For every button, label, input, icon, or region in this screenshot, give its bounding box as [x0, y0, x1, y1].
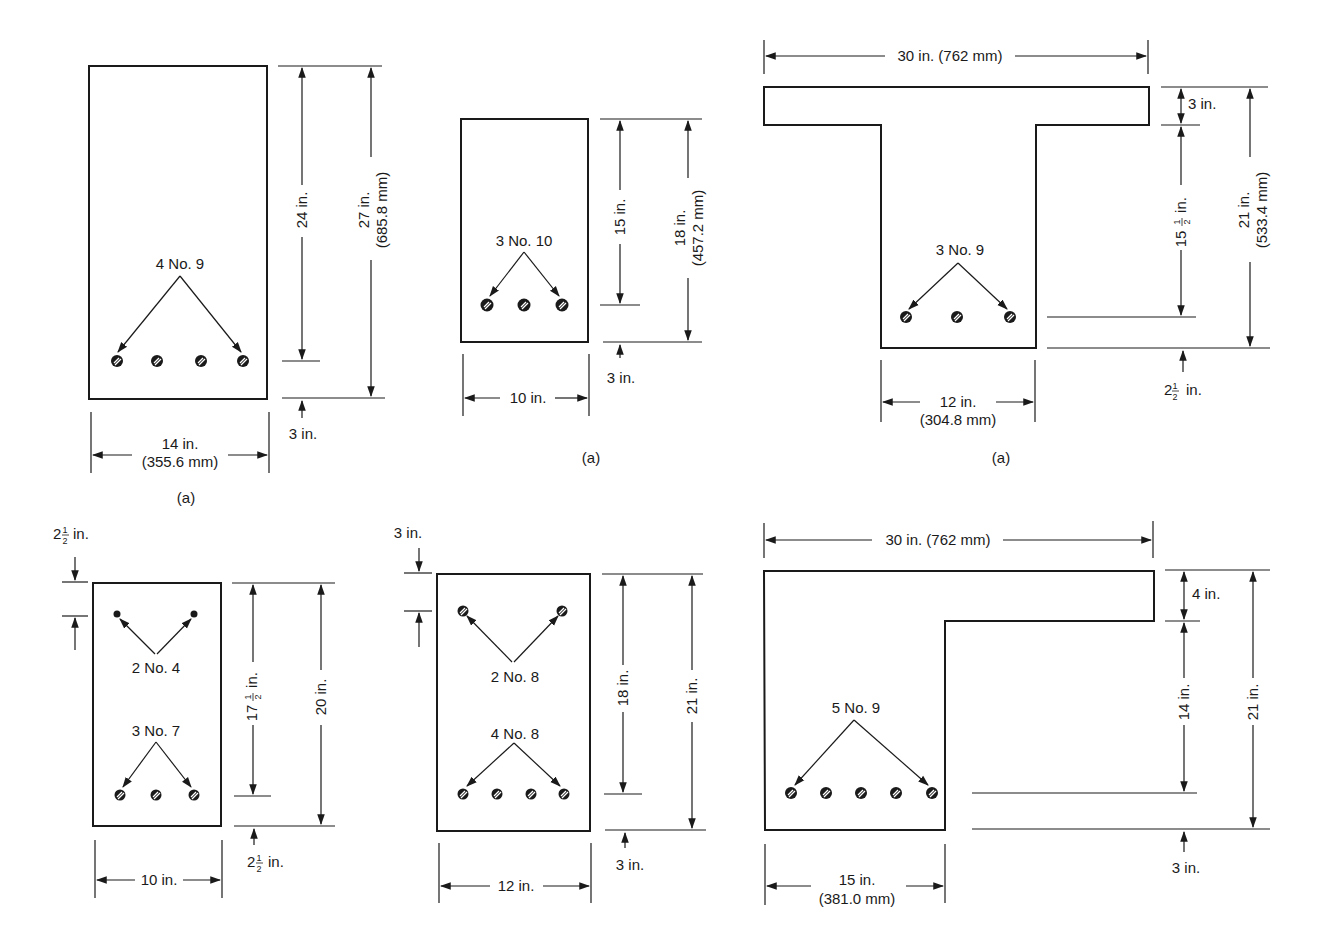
web-width-mm-label: (304.8 mm): [920, 411, 997, 428]
total-depth-label: 20 in.: [312, 679, 329, 716]
section-doubly-12x21: 2 No. 8 4 No. 8 3 in. 18 in. 21 in. 3 in…: [394, 524, 706, 903]
width-label: 10 in.: [141, 871, 178, 888]
concrete-outline: [93, 583, 221, 826]
bottom-cover-label: 2 1 2 in.: [247, 853, 284, 874]
svg-text:1: 1: [256, 853, 261, 863]
total-depth-label: 21 in.: [1235, 192, 1252, 229]
total-depth-mm-label: (685.8 mm): [373, 172, 390, 249]
web-width-label: 12 in.: [940, 393, 977, 410]
svg-text:2: 2: [62, 536, 67, 546]
svg-text:2: 2: [1164, 381, 1172, 398]
concrete-outline: [764, 87, 1149, 348]
bottom-cover-label: 3 in.: [616, 856, 644, 873]
rebar-label: 3 No. 9: [936, 241, 984, 258]
rebar-label: 4 No. 9: [156, 255, 204, 272]
svg-text:in.: in.: [268, 853, 284, 870]
bottom-rebar-label: 4 No. 8: [491, 725, 539, 742]
flange-width-label: 30 in. (762 mm): [885, 531, 990, 548]
svg-text:17: 17: [243, 705, 260, 722]
svg-text:in.: in.: [1186, 381, 1202, 398]
top-rebar-label: 2 No. 8: [491, 668, 539, 685]
svg-text:15: 15: [1172, 231, 1189, 248]
svg-text:2: 2: [1182, 219, 1192, 224]
section-doubly-10x20: 2 No. 4 3 No. 7 2 1 2 in. 17 1: [53, 525, 335, 898]
flange-thickness-label: 3 in.: [1188, 95, 1216, 112]
top-rebar-label: 2 No. 4: [132, 659, 180, 676]
cover-label: 2 1 2 in.: [1164, 381, 1202, 402]
web-depth-label: 15 1 2 in.: [1172, 197, 1192, 247]
svg-text:2: 2: [253, 694, 263, 699]
section-rect-10x18: 3 No. 10 15 in. 18 in. (457.2 mm) 3 in. …: [461, 119, 706, 466]
total-depth-label: 21 in.: [683, 678, 700, 715]
web-width-mm-label: (381.0 mm): [819, 890, 896, 907]
top-cover-label: 3 in.: [394, 524, 422, 541]
effective-depth-label: 15 in.: [611, 199, 628, 236]
total-depth-label: 21 in.: [1244, 684, 1261, 721]
total-depth-mm-label: (533.4 mm): [1253, 172, 1270, 249]
figure-caption: (a): [992, 449, 1010, 466]
figure-caption: (a): [582, 449, 600, 466]
section-rect-14x27: 4 No. 9 24 in. 27 in. (685.8 mm) 3 in. 1…: [89, 66, 390, 506]
top-cover-label: 2 1 2 in.: [53, 525, 89, 546]
svg-text:1: 1: [1172, 219, 1182, 224]
bottom-rebar-label: 3 No. 7: [132, 722, 180, 739]
section-ell-30x21: 5 No. 9 30 in. (762 mm) 4 in. 14 in. 21 …: [764, 521, 1270, 907]
width-label: 14 in.: [162, 435, 199, 452]
flange-thickness-label: 4 in.: [1192, 585, 1220, 602]
effective-depth-label: 17 1 2 in.: [243, 672, 263, 721]
total-depth-label: 27 in.: [355, 192, 372, 229]
cover-label: 3 in.: [289, 425, 317, 442]
cover-label: 3 in.: [1172, 859, 1200, 876]
svg-text:in.: in.: [243, 672, 260, 688]
web-width-label: 15 in.: [839, 871, 876, 888]
width-label: 10 in.: [510, 389, 547, 406]
width-label: 12 in.: [498, 877, 535, 894]
total-depth-label: 18 in.: [671, 210, 688, 247]
effective-depth-label: 24 in.: [293, 192, 310, 229]
beam-sections-diagram: 4 No. 9 24 in. 27 in. (685.8 mm) 3 in. 1…: [0, 0, 1329, 949]
figure-caption: (a): [177, 489, 195, 506]
svg-text:1: 1: [243, 694, 253, 699]
svg-text:in.: in.: [73, 525, 89, 542]
rebar-label: 5 No. 9: [832, 699, 880, 716]
svg-text:2: 2: [1172, 392, 1177, 402]
svg-text:1: 1: [62, 525, 67, 535]
cover-label: 3 in.: [607, 369, 635, 386]
svg-text:in.: in.: [1172, 197, 1189, 213]
web-depth-label: 14 in.: [1175, 684, 1192, 721]
svg-text:2: 2: [53, 525, 61, 542]
section-tee-30x21: 3 No. 9 30 in. (762 mm) 3 in. 15 1 2 in.…: [764, 40, 1270, 466]
rebar-label: 3 No. 10: [496, 232, 553, 249]
svg-text:2: 2: [256, 864, 261, 874]
total-depth-mm-label: (457.2 mm): [689, 190, 706, 267]
width-mm-label: (355.6 mm): [142, 453, 219, 470]
concrete-outline: [89, 66, 267, 399]
svg-text:1: 1: [1172, 381, 1177, 391]
effective-depth-label: 18 in.: [614, 670, 631, 707]
flange-width-label: 30 in. (762 mm): [897, 47, 1002, 64]
svg-text:2: 2: [247, 853, 255, 870]
